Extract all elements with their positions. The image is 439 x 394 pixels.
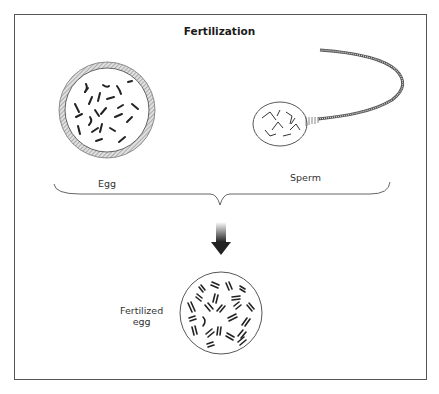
down-arrow-icon <box>211 222 231 255</box>
egg-cell <box>59 62 155 158</box>
fertilized-egg-label-line2: egg <box>120 316 163 327</box>
sperm-cell <box>253 50 403 146</box>
fertilized-egg-cell <box>180 272 262 354</box>
sperm-label: Sperm <box>290 172 321 183</box>
fertilized-egg-label: Fertilized egg <box>120 305 163 327</box>
egg-label: Egg <box>98 178 116 189</box>
fertilized-egg-label-line1: Fertilized <box>120 305 163 316</box>
fertilization-illustration <box>0 0 439 394</box>
